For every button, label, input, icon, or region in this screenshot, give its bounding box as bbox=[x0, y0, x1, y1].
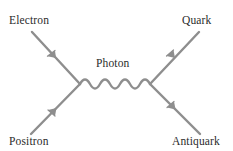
label-photon: Photon bbox=[96, 57, 130, 70]
feynman-diagram: Electron Quark Photon Positron Antiquark bbox=[0, 0, 233, 151]
quark-arrowhead bbox=[167, 50, 176, 58]
label-electron: Electron bbox=[9, 14, 49, 27]
quark-line bbox=[150, 32, 199, 84]
label-quark: Quark bbox=[182, 14, 212, 27]
label-antiquark: Antiquark bbox=[172, 135, 220, 148]
label-positron: Positron bbox=[9, 135, 49, 148]
photon-wave bbox=[80, 80, 150, 89]
